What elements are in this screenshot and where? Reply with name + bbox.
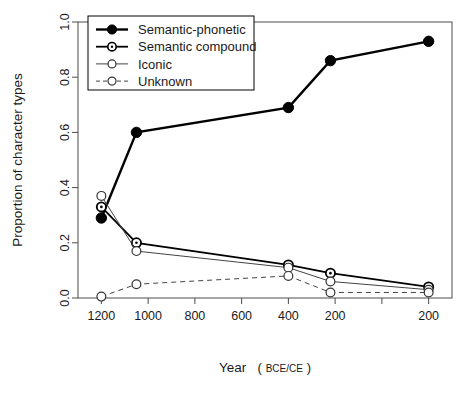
data-point — [423, 36, 433, 46]
series-2 — [97, 202, 433, 291]
legend-label: Iconic — [138, 57, 172, 72]
data-point-center — [135, 242, 138, 245]
y-tick-label: 0.8 — [58, 68, 72, 85]
x-tick-label: 800 — [184, 309, 205, 323]
y-tick-label: 1.0 — [58, 13, 72, 30]
x-tick-label: 1200 — [87, 309, 115, 323]
y-tick-label: 0.0 — [58, 289, 72, 306]
x-tick-label: 1000 — [134, 309, 162, 323]
legend-marker — [107, 25, 116, 34]
y-tick-label: 0.2 — [58, 234, 72, 251]
y-tick-label: 0.6 — [58, 124, 72, 141]
data-point — [96, 213, 106, 223]
data-point — [283, 102, 293, 112]
series-3 — [97, 191, 433, 294]
series-line — [101, 276, 428, 297]
data-point — [325, 55, 335, 65]
legend-marker-center — [111, 46, 113, 48]
legend-label: Semantic-phonetic — [138, 22, 246, 37]
x-tick-label: 600 — [231, 309, 252, 323]
series-line — [101, 207, 428, 287]
legend-marker — [108, 77, 116, 85]
x-axis-ticks — [101, 298, 428, 304]
data-point — [326, 288, 335, 297]
data-point-center — [100, 206, 103, 209]
data-point — [424, 288, 433, 297]
x-tick-label: 400 — [278, 309, 299, 323]
x-axis-title-paren-open: ( — [258, 360, 263, 375]
data-point — [284, 263, 293, 272]
line-chart: 12001000800600400200200 0.00.20.40.60.81… — [0, 0, 470, 395]
data-point-center — [329, 272, 332, 275]
x-axis-title: Year ( BCE/CE ) — [219, 360, 311, 375]
x-axis-title-main: Year — [219, 360, 247, 375]
x-axis-title-text: Year ( BCE/CE ) — [219, 360, 311, 375]
x-tick-label: 200 — [418, 309, 439, 323]
data-point — [326, 277, 335, 286]
data-point — [284, 272, 293, 281]
data-point — [97, 191, 106, 200]
x-axis-title-paren-close: ) — [307, 360, 311, 375]
data-point — [97, 292, 106, 301]
legend-label: Unknown — [138, 74, 192, 89]
data-point — [132, 247, 141, 256]
series-line — [101, 196, 428, 290]
legend-label: Semantic compound — [138, 39, 257, 54]
chart-container: 12001000800600400200200 0.00.20.40.60.81… — [0, 0, 470, 395]
data-point — [132, 280, 141, 289]
y-axis-ticks — [72, 22, 78, 298]
legend-marker — [108, 60, 116, 68]
y-tick-label: 0.4 — [58, 179, 72, 196]
y-axis-title: Proportion of character types — [10, 73, 25, 247]
legend: Semantic-phoneticSemantic compoundIconic… — [88, 16, 257, 90]
x-axis-tick-labels: 12001000800600400200200 — [87, 309, 439, 323]
y-axis-tick-labels: 0.00.20.40.60.81.0 — [58, 13, 72, 306]
x-tick-label: 200 — [325, 309, 346, 323]
data-point — [131, 127, 141, 137]
x-axis-title-unit: BCE/CE — [266, 363, 304, 374]
